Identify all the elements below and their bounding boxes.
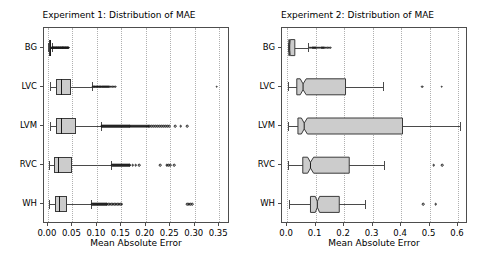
boxplot-outlier [173, 164, 176, 167]
x-tick-mark [429, 223, 430, 226]
boxplot-outlier [174, 125, 177, 128]
y-tick-mark [40, 164, 43, 165]
x-gridline [430, 28, 432, 222]
boxplot-outlier [186, 125, 189, 128]
boxplot-median [58, 157, 59, 173]
boxplot-box [56, 118, 76, 134]
x-tick-label: 0.1 [308, 228, 322, 238]
x-tick-label: 0.2 [336, 228, 350, 238]
y-tick-mark [40, 47, 43, 48]
x-tick-mark [315, 223, 316, 226]
y-tick-label-lvm: LVM [239, 120, 275, 130]
boxplot-whisker [288, 165, 303, 166]
x-tick-label: 0.25 [160, 228, 179, 238]
x-tick-mark [47, 223, 48, 226]
boxplot-box [54, 157, 72, 173]
x-tick-label: 0.6 [450, 228, 464, 238]
x-tick-mark [457, 223, 458, 226]
x-tick-label: 0.10 [86, 228, 105, 238]
x-gridline [373, 28, 375, 222]
boxplot-outlier [215, 86, 218, 89]
boxplot-outlier [120, 203, 123, 206]
boxplot-outlier [168, 125, 171, 128]
y-tick-label-bg: BG [239, 42, 275, 52]
x-tick-label: 0.0 [279, 228, 293, 238]
y-tick-mark [40, 125, 43, 126]
x-tick-label: 0.05 [62, 228, 81, 238]
x-tick-mark [71, 223, 72, 226]
boxplot-cap [288, 82, 289, 91]
x-axis-label-experiment-1: Mean Absolute Error [43, 238, 229, 248]
boxplot-whisker [288, 126, 298, 127]
boxplot-cap [288, 43, 289, 52]
boxplot-cap [288, 122, 289, 131]
y-tick-mark [278, 164, 281, 165]
y-tick-label-lvc: LVC [1, 81, 37, 91]
x-tick-mark [400, 223, 401, 226]
x-tick-mark [96, 223, 97, 226]
x-tick-mark [120, 223, 121, 226]
boxplot-whisker [402, 126, 460, 127]
boxplot-cap [50, 122, 51, 131]
y-tick-label-lvm: LVM [1, 120, 37, 130]
x-tick-label: 0.35 [209, 228, 228, 238]
x-tick-mark [372, 223, 373, 226]
y-tick-mark [278, 125, 281, 126]
x-tick-mark [145, 223, 146, 226]
boxplot-cap [365, 200, 366, 209]
y-tick-label-rvc: RVC [239, 159, 275, 169]
x-gridline [170, 28, 172, 222]
y-tick-mark [278, 86, 281, 87]
x-tick-label: 0.15 [111, 228, 130, 238]
boxplot-median [61, 79, 62, 95]
boxplot-whisker [346, 87, 384, 88]
boxplot-cap [289, 200, 290, 209]
boxplot-box [56, 79, 71, 95]
boxplot-cap [383, 82, 384, 91]
boxplot-cap [288, 161, 289, 170]
boxplot-outlier [114, 86, 117, 89]
boxplot-outlier [169, 164, 172, 167]
x-tick-label: 0.4 [393, 228, 407, 238]
x-tick-mark [343, 223, 344, 226]
x-tick-label: 0.30 [184, 228, 203, 238]
boxplot-cap [49, 161, 50, 170]
boxplot-whisker [288, 87, 297, 88]
x-tick-label: 0.00 [37, 228, 56, 238]
boxplot-outlier [421, 86, 424, 89]
x-gridline [401, 28, 403, 222]
chart-panel-experiment-2: Experiment 2: Distribution of MAE 0.00.1… [238, 0, 477, 260]
y-tick-label-wh: WH [1, 198, 37, 208]
y-tick-mark [278, 47, 281, 48]
boxplot-cap [460, 122, 461, 131]
boxplot-median [59, 196, 60, 212]
boxplot-outlier [191, 203, 194, 206]
boxplot-whisker [349, 165, 384, 166]
x-gridline [97, 28, 99, 222]
boxplot-box [55, 196, 68, 212]
boxplot-outlier [440, 86, 443, 89]
boxplot-outlier [433, 164, 436, 167]
boxplot-outlier [67, 46, 70, 49]
x-gridline [316, 28, 318, 222]
boxplot-outlier [329, 46, 332, 49]
chart-title-experiment-1: Experiment 1: Distribution of MAE [0, 10, 238, 20]
x-gridline [344, 28, 346, 222]
boxplot-cap [50, 82, 51, 91]
chart-title-experiment-2: Experiment 2: Distribution of MAE [238, 10, 477, 20]
x-tick-mark [286, 223, 287, 226]
boxplot-whisker [339, 204, 364, 205]
x-gridline [219, 28, 221, 222]
x-tick-mark [194, 223, 195, 226]
boxplot-outlier [422, 203, 425, 206]
boxplot-whisker [67, 204, 91, 205]
x-tick-label: 0.5 [422, 228, 436, 238]
boxplot-outlier [134, 164, 137, 167]
boxplot-cap [49, 200, 50, 209]
x-tick-label: 0.3 [365, 228, 379, 238]
plot-area-experiment-2 [281, 27, 467, 223]
y-tick-label-bg: BG [1, 42, 37, 52]
boxplot-cap [384, 161, 385, 170]
boxplot-outlier [180, 125, 183, 128]
x-tick-mark [218, 223, 219, 226]
